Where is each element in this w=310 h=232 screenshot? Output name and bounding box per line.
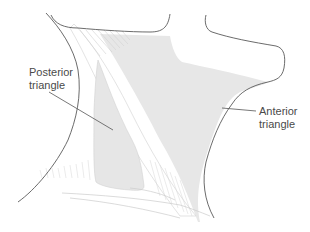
anterior-triangle-label: Anterior triangle — [259, 105, 298, 131]
jaw-outline — [51, 14, 170, 32]
anterior-label-line1: Anterior — [259, 105, 298, 118]
posterior-label-line2: triangle — [29, 79, 73, 92]
posterior-triangle-label: Posterior triangle — [29, 66, 73, 92]
posterior-label-line1: Posterior — [29, 66, 73, 79]
posterior-neck-outline — [18, 13, 79, 202]
anterior-label-line2: triangle — [259, 118, 298, 131]
